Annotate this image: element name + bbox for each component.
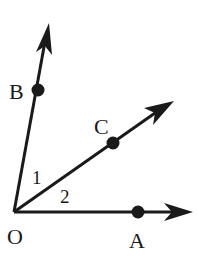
geometry-diagram: B C O A 1 2 (0, 0, 199, 261)
arrowhead-oc-icon (144, 101, 174, 125)
label-b: B (9, 79, 24, 104)
label-o: O (7, 224, 23, 249)
angle-1-label: 1 (32, 167, 42, 188)
angle-2-label: 2 (60, 186, 70, 207)
point-a (132, 206, 145, 219)
ray-oa (14, 203, 193, 221)
label-c: C (94, 114, 109, 139)
label-a: A (129, 228, 145, 253)
point-b (32, 84, 45, 97)
